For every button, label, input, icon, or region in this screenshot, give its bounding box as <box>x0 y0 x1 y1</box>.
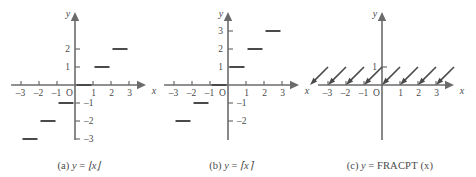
x-tick-label: 1 <box>244 88 249 98</box>
y-axis-label: y <box>372 8 378 19</box>
y-tick-label: 2 <box>65 44 70 54</box>
y-axis-label: y <box>218 8 224 19</box>
caption-b-lhs: y <box>224 160 229 171</box>
x-tick-label: –2 <box>33 88 44 98</box>
caption-panel-a: (a) y = ⌊x⌋ <box>0 159 158 171</box>
panel-floor-function: –3–2–112321–1–2–3Oxy (a) y = ⌊x⌋ <box>0 0 158 177</box>
x-tick-label: –1 <box>204 88 215 98</box>
x-axis-arrowhead <box>290 81 299 89</box>
x-tick-label: –1 <box>51 88 62 98</box>
caption-b-label: (b) <box>209 160 221 171</box>
figure-root: –3–2–112321–1–2–3Oxy (a) y = ⌊x⌋ –3–2–11… <box>0 0 476 177</box>
x-tick-label: 1 <box>91 88 96 98</box>
caption-a-label: (a) <box>58 160 70 171</box>
panel-ceiling-function: –3–2–1123321–1–2Oxy (b) y = ⌈x⌉ <box>152 0 310 177</box>
x-tick-label: 3 <box>280 88 285 98</box>
x-tick-label: 3 <box>434 88 439 98</box>
fracpt-ramp <box>441 67 454 80</box>
x-tick-label: –1 <box>358 88 369 98</box>
y-tick-label: 1 <box>372 62 377 72</box>
caption-panel-b: (b) y = ⌈x⌉ <box>152 159 310 171</box>
caption-c-rhs: FRACPT (x) <box>377 160 433 171</box>
origin-label: O <box>66 88 73 98</box>
fracpt-ramp <box>315 67 328 80</box>
caption-a-rhs: ⌊x⌋ <box>88 160 101 171</box>
ceiling-function-plot: –3–2–1123321–1–2Oxy <box>152 4 310 144</box>
caption-c-label: (c) <box>347 160 359 171</box>
x-axis-arrowhead <box>137 81 146 89</box>
y-tick-label: –2 <box>236 116 247 126</box>
x-axis-label: x <box>459 85 465 96</box>
fracpt-ramp <box>333 67 346 80</box>
x-tick-label: –2 <box>186 88 197 98</box>
y-tick-label: 1 <box>218 62 223 72</box>
caption-b-rhs: ⌈x⌉ <box>240 160 253 171</box>
fracpt-ramp <box>351 67 364 80</box>
x-tick-label: 2 <box>262 88 267 98</box>
y-tick-label: 2 <box>218 44 223 54</box>
y-axis-label: y <box>65 8 71 19</box>
fracpt-ramp <box>423 67 436 80</box>
fracpt-ramp <box>387 67 400 80</box>
origin-label: O <box>219 88 226 98</box>
y-tick-label: 3 <box>218 26 223 36</box>
caption-a-lhs: y <box>72 160 77 171</box>
y-tick-label: –1 <box>83 98 94 108</box>
x-tick-label: 2 <box>109 88 114 98</box>
caption-panel-c: (c) y = FRACPT (x) <box>304 160 476 171</box>
y-tick-label: –2 <box>83 116 94 126</box>
y-axis-arrowhead <box>71 12 79 21</box>
y-axis-arrowhead <box>378 12 386 21</box>
fracpt-ramp <box>405 67 418 80</box>
x-tick-label: 3 <box>127 88 132 98</box>
x-tick-label: –3 <box>322 88 333 98</box>
x-axis-arrowhead <box>445 81 454 89</box>
caption-a-eq: = <box>79 160 85 171</box>
y-tick-label: –1 <box>236 98 247 108</box>
panel-fracpt-function: –3–2–11231Oxy (c) y = FRACPT (x) <box>304 0 476 177</box>
tick-labels-group: –3–2–112321–1–2–3Oxy <box>15 8 157 144</box>
x-tick-label: 1 <box>398 88 403 98</box>
x-tick-label: –3 <box>168 88 179 98</box>
floor-function-plot: –3–2–112321–1–2–3Oxy <box>0 4 158 144</box>
caption-c-eq: = <box>368 160 374 171</box>
x-tick-label: –3 <box>15 88 26 98</box>
axes-group <box>318 12 454 140</box>
caption-b-eq: = <box>231 160 237 171</box>
x-tick-label: –2 <box>340 88 351 98</box>
origin-label: O <box>373 88 380 98</box>
caption-c-lhs: y <box>361 160 366 171</box>
x-tick-label: 2 <box>416 88 421 98</box>
y-tick-label: 1 <box>65 62 70 72</box>
y-axis-arrowhead <box>224 12 232 21</box>
fracpt-function-plot: –3–2–11231Oxy <box>304 4 476 144</box>
y-tick-label: –3 <box>83 134 94 144</box>
